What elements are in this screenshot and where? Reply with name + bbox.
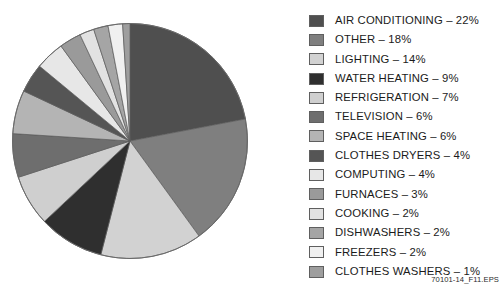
- legend-item-label: FREEZERS – 2%: [335, 247, 426, 258]
- legend: AIR CONDITIONING – 22%OTHER – 18%LIGHTIN…: [309, 11, 501, 281]
- legend-swatch-icon: [309, 53, 324, 65]
- legend-item[interactable]: WATER HEATING – 9%: [309, 69, 501, 88]
- legend-swatch-icon: [309, 188, 324, 200]
- legend-item-label: CLOTHES DRYERS – 4%: [335, 150, 470, 161]
- legend-swatch-icon: [309, 92, 324, 104]
- legend-item[interactable]: COMPUTING – 4%: [309, 165, 501, 184]
- legend-item[interactable]: CLOTHES DRYERS – 4%: [309, 146, 501, 165]
- legend-item[interactable]: REFRIGERATION – 7%: [309, 88, 501, 107]
- legend-swatch-icon: [309, 73, 324, 85]
- legend-item-label: DISHWASHERS – 2%: [335, 227, 450, 238]
- legend-swatch-icon: [309, 266, 324, 278]
- pie-slice-group: [12, 23, 247, 258]
- legend-item[interactable]: LIGHTING – 14%: [309, 50, 501, 69]
- legend-item-label: COMPUTING – 4%: [335, 169, 435, 180]
- legend-swatch-icon: [309, 15, 324, 27]
- legend-item-label: LIGHTING – 14%: [335, 54, 426, 65]
- legend-swatch-icon: [309, 246, 324, 258]
- legend-item-label: AIR CONDITIONING – 22%: [335, 15, 479, 26]
- legend-item-label: SPACE HEATING – 6%: [335, 131, 457, 142]
- legend-item[interactable]: COOKING – 2%: [309, 204, 501, 223]
- legend-item[interactable]: FURNACES – 3%: [309, 185, 501, 204]
- legend-item[interactable]: AIR CONDITIONING – 22%: [309, 11, 501, 30]
- legend-item[interactable]: FREEZERS – 2%: [309, 243, 501, 262]
- legend-item-label: REFRIGERATION – 7%: [335, 92, 459, 103]
- legend-item[interactable]: DISHWASHERS – 2%: [309, 223, 501, 242]
- legend-item[interactable]: TELEVISION – 6%: [309, 107, 501, 126]
- figure-id-label: 70101-14_F11.EPS: [431, 275, 499, 284]
- legend-swatch-icon: [309, 208, 324, 220]
- legend-swatch-icon: [309, 150, 324, 162]
- legend-swatch-icon: [309, 227, 324, 239]
- pie-chart-svg: [8, 14, 258, 269]
- legend-item-label: TELEVISION – 6%: [335, 111, 433, 122]
- legend-swatch-icon: [309, 130, 324, 142]
- legend-item-label: WATER HEATING – 9%: [335, 73, 459, 84]
- legend-swatch-icon: [309, 111, 324, 123]
- legend-item[interactable]: SPACE HEATING – 6%: [309, 127, 501, 146]
- legend-swatch-icon: [309, 34, 324, 46]
- pie-chart: [8, 14, 258, 269]
- legend-item-label: OTHER – 18%: [335, 34, 411, 45]
- legend-item-label: COOKING – 2%: [335, 208, 419, 219]
- legend-swatch-icon: [309, 169, 324, 181]
- legend-item[interactable]: OTHER – 18%: [309, 30, 501, 49]
- figure-container: AIR CONDITIONING – 22%OTHER – 18%LIGHTIN…: [0, 0, 503, 289]
- legend-item-label: FURNACES – 3%: [335, 189, 428, 200]
